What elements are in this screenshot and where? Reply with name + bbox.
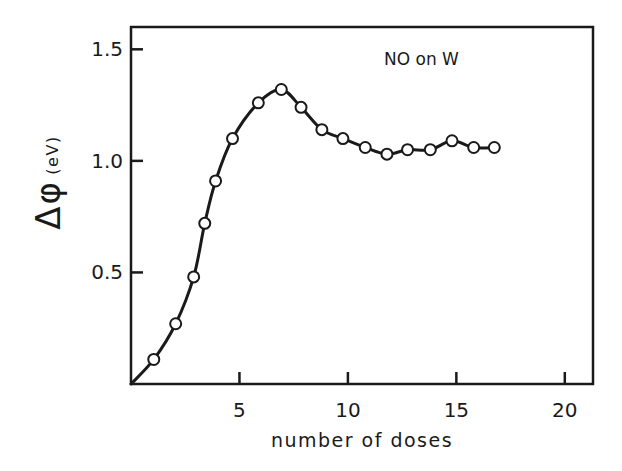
data-point-marker: [148, 354, 159, 365]
data-point-marker: [210, 175, 221, 186]
y-tick-label: 1.5: [91, 37, 123, 61]
y-axis-title-symbol: Δφ: [28, 180, 68, 230]
data-point-marker: [296, 102, 307, 113]
chart-annotation: NO on W: [384, 49, 459, 69]
chart: 5101520 0.51.01.5 NO on W number of dose…: [0, 0, 622, 471]
data-point-marker: [468, 142, 479, 153]
data-point-marker: [188, 271, 199, 282]
data-point-marker: [227, 133, 238, 144]
data-point-marker: [447, 135, 458, 146]
x-axis-ticks: 5101520: [233, 372, 577, 422]
data-point-marker: [489, 142, 500, 153]
data-point-marker: [170, 318, 181, 329]
y-tick-label: 1.0: [91, 149, 123, 173]
data-point-marker: [253, 97, 264, 108]
y-tick-label: 0.5: [91, 260, 123, 284]
y-axis-title: Δφ (eV): [28, 135, 68, 229]
x-tick-label: 5: [233, 398, 246, 422]
data-curve: [131, 89, 494, 384]
data-markers: [148, 84, 500, 365]
x-tick-label: 15: [444, 398, 469, 422]
data-point-marker: [337, 133, 348, 144]
y-axis-title-unit: (eV): [43, 135, 62, 174]
data-point-marker: [316, 124, 327, 135]
data-point-marker: [276, 84, 287, 95]
x-tick-label: 10: [335, 398, 360, 422]
data-point-marker: [425, 144, 436, 155]
x-axis-title: number of doses: [271, 429, 453, 451]
axes-box: [131, 27, 593, 384]
y-axis-ticks: 0.51.01.5: [91, 37, 143, 284]
data-point-marker: [381, 149, 392, 160]
plot-frame: [131, 27, 593, 384]
data-point-marker: [199, 218, 210, 229]
x-tick-label: 20: [552, 398, 577, 422]
data-point-marker: [360, 142, 371, 153]
data-point-marker: [402, 144, 413, 155]
